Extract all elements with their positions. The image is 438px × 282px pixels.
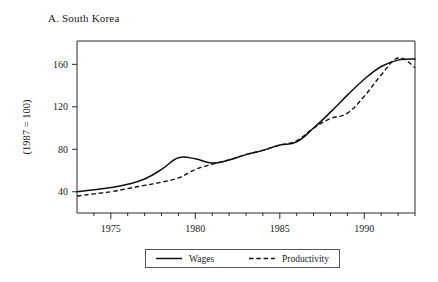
y-tick-label: 160 xyxy=(53,59,68,70)
x-tick-label: 1980 xyxy=(185,223,205,234)
x-tick-label: 1985 xyxy=(270,223,290,234)
series-line-wages xyxy=(77,59,415,192)
y-tick-label: 80 xyxy=(58,144,68,155)
legend-label-productivity: Productivity xyxy=(282,254,329,264)
y-axis-label: (1987 = 100) xyxy=(21,99,33,154)
page-title: A. South Korea xyxy=(48,12,120,24)
legend: Wages Productivity xyxy=(146,250,340,268)
x-tick-label: 1990 xyxy=(354,223,374,234)
x-tick-label: 1975 xyxy=(101,223,121,234)
legend-label-wages: Wages xyxy=(189,254,214,264)
x-axis-ticks: 1975198019851990 xyxy=(94,213,415,234)
y-axis-ticks: 4080120160 xyxy=(53,59,77,197)
y-tick-label: 120 xyxy=(53,101,68,112)
data-series-layer xyxy=(77,58,415,196)
y-tick-label: 40 xyxy=(58,186,68,197)
plot-frame xyxy=(77,41,415,213)
chart-figure: A. South Korea (1987 = 100) 4080120160 1… xyxy=(0,0,438,282)
